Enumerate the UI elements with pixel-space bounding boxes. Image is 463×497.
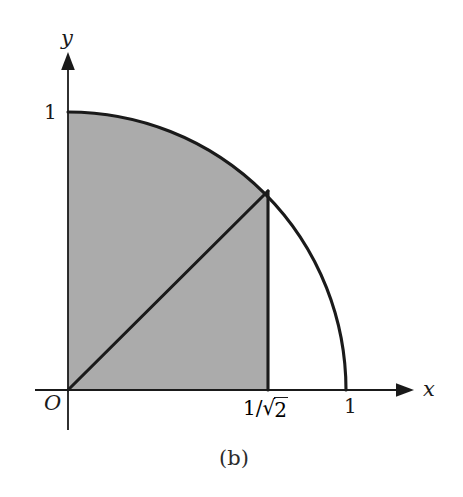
fraction-numerator: 1 xyxy=(243,396,256,420)
radicand: 2 xyxy=(274,397,288,422)
y-tick-label-one: 1 xyxy=(44,102,57,122)
x-tick-label-inv-sqrt2: 1 / √ 2 xyxy=(243,396,288,422)
figure-caption: (b) xyxy=(219,448,249,469)
radical-sign-glyph: √ xyxy=(262,395,275,420)
square-root-icon: √ 2 xyxy=(262,396,287,422)
fraction-slash: / xyxy=(256,396,263,420)
x-axis-label: x xyxy=(423,379,435,400)
arrow-up-icon xyxy=(61,52,75,70)
origin-label: O xyxy=(44,393,61,414)
y-axis-label: y xyxy=(61,28,73,49)
quarter-circle-diagram xyxy=(0,0,463,497)
x-tick-label-one: 1 xyxy=(344,396,357,416)
shaded-region xyxy=(68,112,268,390)
arrow-right-icon xyxy=(396,383,414,397)
figure-panel-b: y x 1 O 1 / √ 2 1 (b) xyxy=(0,0,463,497)
